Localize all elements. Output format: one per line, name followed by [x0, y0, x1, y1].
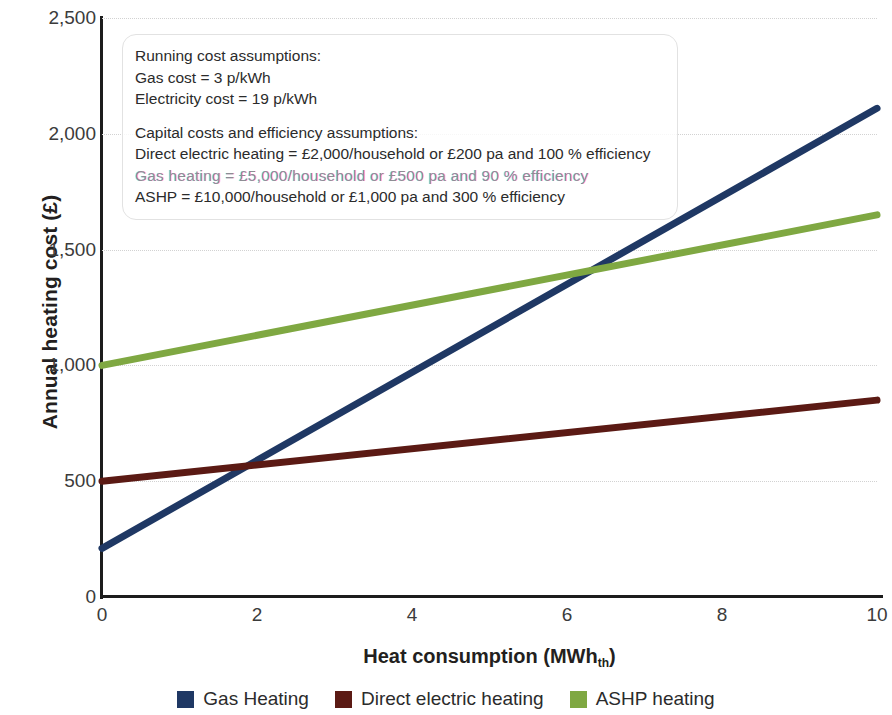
legend-label: Gas Heating	[203, 688, 309, 710]
x-tick-label: 8	[692, 604, 752, 626]
x-axis-title-subscript: th	[598, 656, 609, 670]
chart-legend: Gas HeatingDirect electric heatingASHP h…	[0, 688, 892, 710]
legend-swatch-icon	[335, 691, 352, 708]
x-tick-label: 4	[382, 604, 442, 626]
running-cost-heading: Running cost assumptions:	[135, 45, 680, 67]
legend-label: ASHP heating	[596, 688, 715, 710]
legend-label: Direct electric heating	[361, 688, 544, 710]
legend-swatch-icon	[570, 691, 587, 708]
y-tick-label: 1,500	[18, 239, 96, 261]
capital-cost-heading: Capital costs and efficiency assumptions…	[135, 122, 680, 144]
y-tick-label: 1,000	[18, 354, 96, 376]
assumptions-text: Running cost assumptions: Gas cost = 3 p…	[135, 45, 680, 208]
direct-electric-assumption: Direct electric heating = £2,000/househo…	[135, 143, 680, 165]
gas-heating-assumption: Gas heating = £5,000/household or £500 p…	[135, 165, 680, 187]
x-axis-title-main: Heat consumption (MWh	[363, 645, 597, 667]
legend-swatch-icon	[177, 691, 194, 708]
x-tick-label: 10	[847, 604, 892, 626]
legend-item[interactable]: Gas Heating	[177, 688, 309, 710]
x-axis-title-suffix: )	[609, 645, 616, 667]
y-tick-label: 500	[18, 470, 96, 492]
assumptions-spacer	[135, 110, 680, 122]
x-tick-label: 0	[72, 604, 132, 626]
ashp-assumption: ASHP = £10,000/household or £1,000 pa an…	[135, 186, 680, 208]
x-tick-label: 2	[227, 604, 287, 626]
legend-item[interactable]: ASHP heating	[570, 688, 715, 710]
y-tick-label: 2,500	[18, 7, 96, 29]
x-tick-label: 6	[537, 604, 597, 626]
heating-cost-chart: Annual heating cost (£) 05001,0001,5002,…	[0, 0, 892, 715]
legend-item[interactable]: Direct electric heating	[335, 688, 544, 710]
series-line	[102, 400, 877, 481]
x-axis-title: Heat consumption (MWhth)	[102, 645, 877, 668]
series-line	[102, 215, 877, 366]
y-tick-label: 2,000	[18, 123, 96, 145]
gas-cost-line: Gas cost = 3 p/kWh	[135, 67, 680, 89]
electricity-cost-line: Electricity cost = 19 p/kWh	[135, 88, 680, 110]
